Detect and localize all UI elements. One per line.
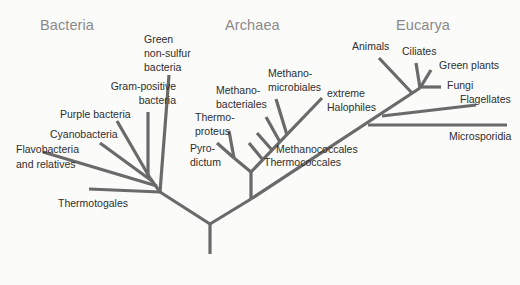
label-purple-bacteria: Purple bacteria xyxy=(60,107,131,121)
label-gram-positive-bacteria: Gram-positive bacteria xyxy=(94,79,176,107)
animals-branch xyxy=(379,58,412,93)
label-animals: Animals xyxy=(352,39,389,53)
methanobacteriales-branch xyxy=(266,117,280,142)
label-green-nonsulfur-bacteria: Green non-sulfur bacteria xyxy=(144,32,191,74)
tree-of-life-diagram: Bacteria Archaea Eucarya Green non-sulfu… xyxy=(0,0,520,285)
label-pyrodictum: Pyro- dictum xyxy=(190,141,221,169)
label-cyanobacteria: Cyanobacteria xyxy=(50,127,118,141)
thermococcales-branch xyxy=(249,143,263,160)
label-flagellates: Flagellates xyxy=(460,92,511,106)
label-methanococcales: Methanococcales xyxy=(276,143,358,156)
thermotogales-branch xyxy=(89,189,160,192)
label-thermococcales: Thermococcales xyxy=(264,156,341,169)
domain-title-archaea: Archaea xyxy=(225,17,280,33)
ciliates-branch xyxy=(416,63,420,88)
label-methanobacteriales: Methano- bacteriales xyxy=(216,83,267,111)
methanococcales-branch xyxy=(257,133,272,150)
domain-title-bacteria: Bacteria xyxy=(40,17,94,33)
green-plants-branch xyxy=(420,70,431,88)
domain-title-eucarya: Eucarya xyxy=(396,17,450,33)
label-flavobacteria: Flavobacteria and relatives xyxy=(16,142,79,172)
label-extreme-halophiles: extreme Halophiles xyxy=(327,86,376,114)
label-fungi: Fungi xyxy=(447,78,473,92)
label-thermoproteus: Thermo- proteus xyxy=(195,110,235,138)
label-methanomicrobiales: Methano- microbiales xyxy=(268,66,321,94)
label-thermotogales: Thermotogales xyxy=(58,196,128,210)
label-ciliates: Ciliates xyxy=(402,44,436,58)
label-green-plants: Green plants xyxy=(439,58,499,72)
flagellates-branch xyxy=(382,105,476,116)
label-microsporidia: Microsporidia xyxy=(449,129,511,143)
archaea-left xyxy=(234,158,251,172)
bacteria-stem xyxy=(160,192,210,224)
archaea-eucarya-stem xyxy=(210,199,251,224)
methanomicrobiales-branch xyxy=(276,99,287,135)
